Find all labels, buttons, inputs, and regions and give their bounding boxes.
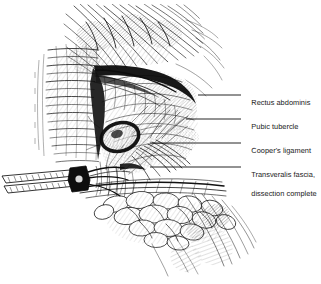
label-rectus-abdominis-line1: Rectus abdominis	[251, 98, 310, 107]
label-coopers-ligament-line1: Cooper's ligament	[251, 146, 311, 155]
label-transveralis-fascia: Transveralis fascia, dissection complete	[243, 161, 317, 208]
label-pubic-tubercle-line1: Pubic tubercle	[251, 122, 298, 131]
label-transveralis-fascia-line1: Transveralis fascia,	[251, 170, 315, 179]
label-transveralis-fascia-line2: dissection complete	[251, 189, 316, 198]
anatomical-illustration-figure: Rectus abdominis Pubic tubercle Cooper's…	[0, 0, 321, 284]
